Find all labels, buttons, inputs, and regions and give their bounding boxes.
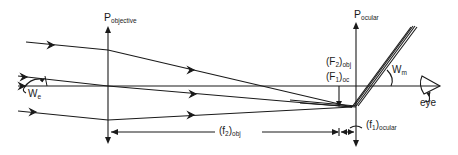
label-f1-oc-focus: (F1)oc — [326, 72, 349, 84]
label-f2-obj-focus: (F2)obj — [326, 57, 351, 69]
mirror — [352, 26, 417, 107]
label-f1-ocular-length: (f1)ocular — [366, 120, 397, 132]
label-p-ocular: Pocular — [354, 9, 379, 22]
label-w-m: Wm — [392, 65, 407, 77]
label-eye: eye — [420, 98, 436, 108]
eye-icon — [420, 76, 440, 94]
label-f2-obj-length: (f2)obj — [219, 126, 241, 138]
label-w-e: We — [28, 89, 41, 101]
label-p-objective: Pobjective — [104, 12, 137, 25]
